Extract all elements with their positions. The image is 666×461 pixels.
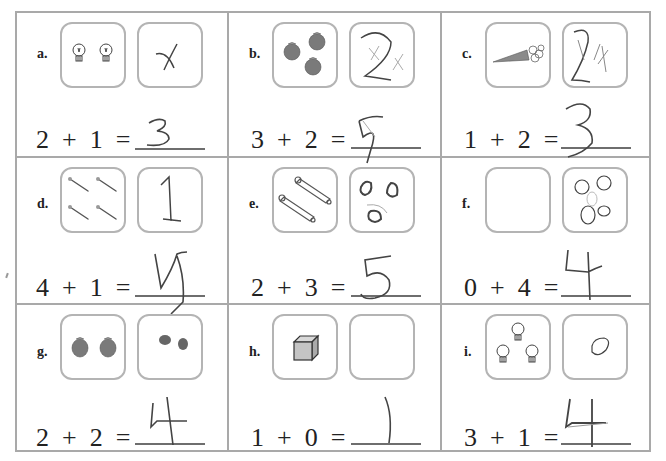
picture-box-addend1-empty [485,167,551,233]
handwritten-answer[interactable] [147,389,223,449]
handwritten-answer[interactable] [137,105,213,165]
hand-drawn-circles-icon [564,169,626,231]
picture-box-addend1 [60,167,126,233]
hand-drawn-circle-icon [564,316,626,378]
picture-box-addend1 [485,22,551,88]
picture-box-addend2 [137,22,203,88]
picture-box-addend2 [137,167,203,233]
picture-box-addend2 [562,22,628,88]
equation: 1 + 2 = [464,125,558,155]
stray-pencil-mark [5,273,9,278]
problem-label: b. [249,46,260,62]
problem-b: b. 3 + 2 = [229,13,440,156]
picture-box-addend2-empty [349,314,415,380]
scribbled-dots-icon [139,316,201,378]
handwritten-answer[interactable] [560,387,636,447]
handwritten-digit-2-icon [564,24,626,86]
picture-box-addend1 [272,22,338,88]
problem-h: h. 1 + 0 = [229,305,440,452]
picture-box-addend2 [137,314,203,380]
apple-icon [62,316,124,378]
handwritten-answer[interactable] [554,95,630,155]
equation: 2 + 2 = [36,423,130,453]
picture-box-addend2 [349,22,415,88]
equation: 2 + 3 = [251,273,345,303]
equation: 3 + 1 = [464,423,558,453]
handwritten-digit-2-icon [351,24,413,86]
carrot-icon [487,24,549,86]
light-bulb-icon [487,316,549,378]
handwritten-answer[interactable] [562,240,638,300]
equation: 0 + 4 = [464,273,558,303]
picture-box-addend1 [272,167,338,233]
equation: 3 + 2 = [251,125,345,155]
equation: 2 + 1 = [36,125,130,155]
safety-pin-icon [274,169,336,231]
problem-f: f. 0 + 4 = [442,158,651,303]
problem-label: g. [37,344,48,360]
problem-g: g. 2 + 2 = [17,305,227,452]
handwritten-answer[interactable] [349,101,425,161]
hand-drawn-circles-icon [351,169,413,231]
handwritten-answer[interactable] [353,250,429,310]
equation: 1 + 0 = [251,423,345,453]
light-bulb-icon [62,24,124,86]
problem-a: a. 2 + 1 = [17,13,227,156]
handwritten-digit-4 [560,387,636,447]
problem-label: f. [462,196,470,212]
problem-label: a. [37,46,48,62]
picture-box-addend2 [562,167,628,233]
picture-box-addend1 [272,314,338,380]
apple-icon [274,24,336,86]
handwritten-digit-4 [562,240,638,300]
problem-label: c. [462,46,472,62]
handwritten-answer[interactable] [147,248,223,308]
problem-label: i. [464,344,471,360]
handwritten-digit-1 [363,389,439,449]
handwritten-digit-3 [137,105,213,165]
handwritten-digit-5 [353,250,429,310]
problem-label: e. [249,196,259,212]
problem-i: i. 3 + 1 = [442,305,651,452]
handwritten-digit-1-icon [139,169,201,231]
cube-icon [274,316,336,378]
handwritten-digit-5 [349,101,425,161]
picture-box-addend1 [60,22,126,88]
nail-icon [62,169,124,231]
problem-c: c. 1 + 2 = [442,13,651,156]
handwritten-digit-5 [147,248,223,308]
problem-d: d. 4 + 1 = [17,158,227,303]
equation: 4 + 1 = [36,273,130,303]
handwritten-digit-3 [554,95,630,155]
picture-box-addend1 [60,314,126,380]
picture-box-addend2 [562,314,628,380]
picture-box-addend1 [485,314,551,380]
picture-box-addend2 [349,167,415,233]
problem-e: e. 2 + 3 = [229,158,440,303]
problem-label: h. [249,344,260,360]
pencil-cross-mark-icon [139,24,201,86]
problem-label: d. [37,196,48,212]
handwritten-digit-4 [147,389,223,449]
handwritten-answer[interactable] [363,389,439,449]
